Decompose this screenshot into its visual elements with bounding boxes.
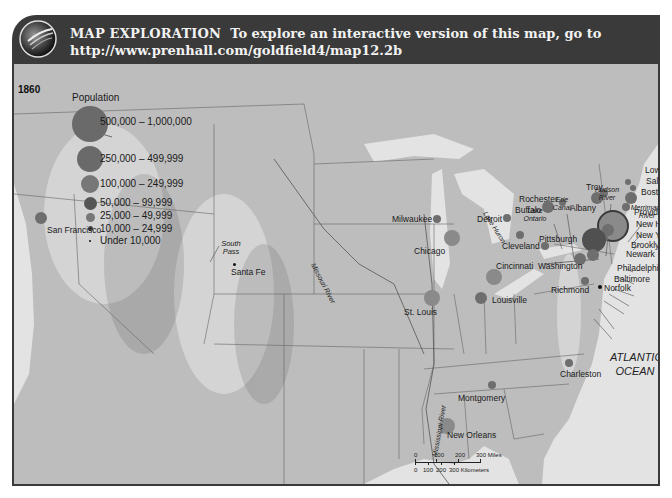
city-marker-providence [622, 203, 630, 211]
label-atlantic-ocean: ATLANTIC OCEAN [610, 350, 660, 378]
city-label-salem: Salem [646, 176, 660, 186]
city-marker-charleston [565, 359, 573, 367]
city-label-new-haven: New Haven [636, 219, 660, 229]
city-label-montgomery: Montgomery [458, 393, 505, 403]
city-label-norfolk: Norfolk [604, 283, 631, 293]
legend-title: Population [72, 92, 119, 103]
map-year: 1860 [18, 84, 40, 95]
city-label-albany: Albany [570, 203, 596, 213]
city-marker-baltimore [587, 249, 599, 261]
city-label-baltimore: Baltimore [614, 274, 650, 284]
city-label-chicago: Chicago [414, 246, 445, 256]
city-label-new-orleans: New Orleans [447, 430, 496, 440]
legend-label-25k: 25,000 – 49,999 [100, 210, 172, 221]
legend-circle-50k [84, 197, 97, 210]
city-marker-cleveland [516, 231, 524, 239]
scale-km-200: 200 [436, 467, 446, 473]
city-label-cincinnati: Cincinnati [496, 261, 533, 271]
city-marker-lowell [625, 179, 631, 185]
city-label-new-york: New York [636, 230, 660, 240]
city-marker-louisville [475, 292, 487, 304]
city-marker-st-louis [424, 290, 440, 306]
scale-km-0: 0 [414, 467, 417, 473]
city-marker-detroit [503, 214, 511, 222]
legend-label-250k: 250,000 – 499,999 [100, 153, 183, 164]
banner-description: To explore an interactive version of thi… [230, 26, 601, 41]
city-label-newark: Newark [626, 249, 655, 259]
city-label-pittsburgh: Pittsburgh [539, 234, 577, 244]
label-merrimack-river: Merrimack River [630, 204, 660, 220]
scale-bar: 0 100 200 300 Miles 0 100 200 300 Kilome… [414, 452, 534, 482]
city-marker-montgomery [488, 381, 496, 389]
city-label-charleston: Charleston [560, 369, 601, 379]
city-marker-san-francisco [35, 212, 47, 224]
legend-label-50k: 50,000 – 99,999 [100, 197, 172, 208]
legend-circle-100k [81, 175, 99, 193]
scale-km-100: 100 [423, 467, 433, 473]
scale-miles-200: 200 [455, 452, 465, 458]
city-label-milwaukee: Milwaukee [392, 214, 432, 224]
city-label-cleveland: Cleveland [502, 241, 540, 251]
city-label-st-louis: St. Louis [404, 307, 437, 317]
banner-url-link[interactable]: http://www.prenhall.com/goldfield4/map12… [70, 43, 402, 58]
legend-circle-25k [86, 213, 95, 222]
scale-miles-0: 0 [414, 452, 417, 458]
city-label-philadelphia: Philadelphia [617, 263, 660, 273]
banner-text: MAP EXPLORATION To explore an interactiv… [70, 25, 601, 59]
map-exploration-banner: MAP EXPLORATION To explore an interactiv… [12, 15, 660, 62]
city-marker-santa-fe [233, 263, 236, 266]
city-label-boston: Boston [641, 187, 660, 197]
city-marker-richmond [581, 277, 589, 285]
legend-label-10k: 10,000 – 24,999 [100, 223, 172, 234]
city-marker-salem [630, 185, 636, 191]
city-label-richmond: Richmond [551, 285, 589, 295]
city-marker-milwaukee [433, 215, 441, 223]
us-1860-population-map: 1860 Population 500,000 – 1,000,000 250,… [12, 62, 660, 486]
legend-label-500k: 500,000 – 1,000,000 [100, 116, 192, 127]
legend-circle-under10k [89, 240, 91, 242]
city-label-san-francisco: San Francisco [47, 225, 101, 235]
globe-icon [18, 19, 58, 59]
city-label-santa-fe: Santa Fe [231, 267, 266, 277]
label-erie-canal: Erie Canal [552, 196, 572, 212]
legend-label-under10k: Under 10,000 [100, 235, 161, 246]
city-marker-chicago [444, 230, 460, 246]
legend-label-100k: 100,000 – 249,999 [100, 178, 183, 189]
scale-miles-300: 300 Miles [476, 452, 502, 458]
scale-km-300: 300 Kilometers [449, 467, 489, 473]
label-hudson-river: Hudson River [594, 186, 620, 202]
map-base [14, 64, 658, 484]
city-marker-norfolk [598, 285, 602, 289]
city-label-lowell: Lowell [645, 165, 660, 175]
scale-miles-100: 100 [434, 452, 444, 458]
label-south-pass: South Pass [220, 240, 242, 256]
banner-lead: MAP EXPLORATION [70, 26, 221, 41]
label-lake-ontario: Lake Ontario [522, 207, 548, 223]
city-marker-cincinnati [486, 269, 502, 285]
city-label-louisville: Louisville [492, 295, 527, 305]
city-label-washington: Washington [538, 261, 583, 271]
